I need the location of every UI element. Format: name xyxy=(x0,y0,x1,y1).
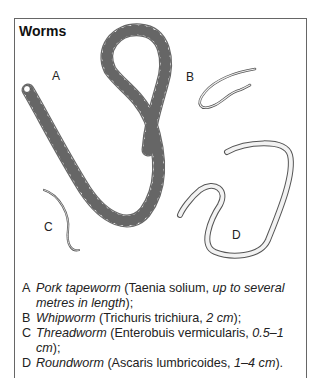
label-b: B xyxy=(186,70,194,84)
legend-item-c: C Threadworm (Enterobuis vermicularis, 0… xyxy=(22,326,307,356)
label-d: D xyxy=(232,228,241,242)
legend-item-a: A Pork tapeworm (Taenia solium, up to se… xyxy=(22,281,307,311)
legend-item-d: D Roundworm (Ascaris lumbricoides, 1–4 c… xyxy=(22,356,307,371)
legend: A Pork tapeworm (Taenia solium, up to se… xyxy=(22,281,307,371)
legend-item-b: B Whipworm (Trichuris trichiura, 2 cm); xyxy=(22,311,307,326)
tapeworm-illustration xyxy=(24,30,166,221)
label-c: C xyxy=(44,220,53,234)
label-a: A xyxy=(52,69,60,83)
whipworm-illustration xyxy=(200,69,255,108)
worm-illustrations xyxy=(0,0,317,280)
